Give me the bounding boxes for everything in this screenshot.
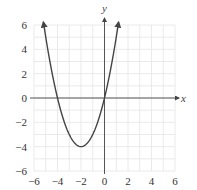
- x-tick-label: 0: [102, 175, 108, 187]
- y-tick-label: 2: [22, 68, 28, 80]
- x-tick-label: −6: [28, 175, 40, 187]
- parabola-chart: −6−4−20246−6−4−20246 x y: [0, 0, 197, 190]
- y-tick-label: 6: [22, 19, 28, 31]
- y-tick-label: −2: [15, 116, 27, 128]
- x-tick-label: −2: [75, 175, 87, 187]
- y-tick-label: 4: [22, 43, 28, 55]
- y-tick-label: −4: [15, 141, 27, 153]
- y-axis-label: y: [101, 2, 107, 14]
- y-tick-label: 0: [22, 92, 28, 104]
- x-tick-label: 4: [149, 175, 155, 187]
- tick-labels: −6−4−20246−6−4−20246: [15, 19, 178, 187]
- y-tick-label: −6: [15, 165, 27, 177]
- x-tick-label: −4: [52, 175, 64, 187]
- x-axis-label: x: [180, 92, 186, 104]
- x-tick-label: 2: [125, 175, 131, 187]
- x-tick-label: 6: [172, 175, 178, 187]
